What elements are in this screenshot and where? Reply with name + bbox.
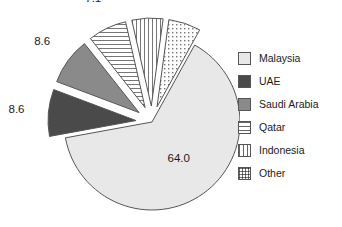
pie-slice-value-saudi-arabia: 8.6 [34,35,50,47]
pie-slice-value-malaysia: 64.0 [167,152,189,164]
pie-slice-value-uae: 8.6 [9,103,25,115]
legend-item-label: UAE [259,76,281,87]
legend-item-label: Other [259,168,285,179]
legend-swatch-icon [238,121,251,134]
legend-item-other[interactable]: Other [238,162,342,185]
legend-item-label: Indonesia [259,145,305,156]
legend-item-indonesia[interactable]: Indonesia [238,139,342,162]
legend-item-malaysia[interactable]: Malaysia [238,47,342,70]
pie-svg: 64.08.68.67.15.75.9 [0,0,240,227]
pie-plot-area: 64.08.68.67.15.75.9 [0,0,240,227]
legend-swatch-icon [238,98,251,111]
legend-item-uae[interactable]: UAE [238,70,342,93]
legend-swatch-icon [238,52,251,65]
chart-legend: MalaysiaUAESaudi ArabiaQatarIndonesiaOth… [238,47,342,185]
legend-swatch-icon [238,167,251,180]
legend-swatch-icon [238,75,251,88]
pie-chart-figure: 64.08.68.67.15.75.9 MalaysiaUAESaudi Ara… [0,0,342,227]
legend-item-qatar[interactable]: Qatar [238,116,342,139]
legend-item-label: Qatar [259,122,285,133]
legend-item-label: Saudi Arabia [259,99,319,110]
legend-item-label: Malaysia [259,53,300,64]
pie-slice-layer [48,18,240,210]
pie-slice-value-qatar: 7.1 [85,0,101,4]
legend-swatch-icon [238,144,251,157]
legend-item-saudi-arabia[interactable]: Saudi Arabia [238,93,342,116]
